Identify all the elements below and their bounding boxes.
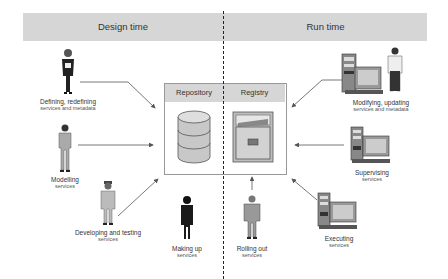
run-item-modifying-subtitle: services and metadata	[333, 106, 429, 113]
computer-and-man-icon	[341, 47, 409, 97]
run-item-executing-subtitle: services	[307, 242, 371, 249]
run-item-modifying-title: Modifying, updating	[353, 99, 409, 106]
design-item-making-up: Making up services	[155, 245, 219, 259]
man-figure-icon	[56, 124, 74, 174]
man-coat-figure-icon	[99, 181, 117, 227]
run-item-modifying: Modifying, updating services and metadat…	[333, 99, 429, 113]
run-item-rolling-out-title: Rolling out	[237, 245, 268, 252]
computer-icon	[317, 192, 359, 230]
run-item-rolling-out: Rolling out services	[222, 245, 282, 259]
design-item-modelling-subtitle: services	[30, 183, 100, 190]
run-item-rolling-out-subtitle: services	[222, 252, 282, 259]
design-item-modelling: Modelling services	[30, 176, 100, 190]
run-item-supervising-title: Supervising	[355, 169, 389, 176]
woman-figure-icon	[58, 48, 78, 96]
design-item-defining: Defining, redefining services and metada…	[18, 98, 118, 112]
design-item-developing-title: Developing and testing	[75, 229, 141, 236]
run-item-executing-title: Executing	[325, 235, 354, 242]
design-item-modelling-title: Modelling	[51, 176, 79, 183]
design-item-making-up-title: Making up	[172, 245, 202, 252]
design-item-making-up-subtitle: services	[155, 252, 219, 259]
run-item-executing: Executing services	[307, 235, 371, 249]
run-item-supervising-subtitle: services	[340, 176, 404, 183]
design-item-developing-subtitle: services	[58, 236, 158, 243]
design-item-defining-title: Defining, redefining	[40, 98, 96, 105]
design-item-developing: Developing and testing services	[58, 229, 158, 243]
computer-icon	[350, 126, 392, 164]
woman-dress-figure-icon	[179, 195, 195, 243]
run-item-supervising: Supervising services	[340, 169, 404, 183]
man-suit-figure-icon	[241, 195, 263, 241]
design-item-defining-subtitle: services and metadata	[18, 105, 118, 112]
